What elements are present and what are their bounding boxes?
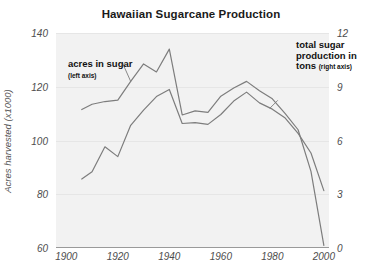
annotation-acres-axis-note: (left axis)	[68, 72, 97, 79]
left-axis-tick-label: 80	[0, 189, 48, 200]
annotation-sugar-label-line2: production in	[296, 50, 357, 61]
right-axis-tick-label: 6	[329, 135, 363, 146]
annotation-sugar-label-line3: tons	[296, 60, 316, 71]
right-axis-tick-label: 9	[329, 81, 363, 92]
annotation-sugar-label-line1: total sugar	[296, 39, 345, 50]
x-axis-tick-label: 1900	[55, 251, 77, 262]
x-axis-tick-label: 1920	[107, 251, 129, 262]
left-axis-tick-label: 100	[0, 135, 48, 146]
chart-title: Hawaiian Sugarcane Production	[0, 8, 382, 20]
annotation-acres-label: acres in sugar	[68, 58, 132, 69]
annotation-acres-in-sugar: acres in sugar (left axis)	[68, 59, 168, 81]
left-axis-tick-label: 140	[0, 28, 48, 39]
right-axis-tick-label: 12	[329, 28, 363, 39]
x-axis-tick-label: 1980	[261, 251, 283, 262]
right-axis-tick-label: 3	[329, 189, 363, 200]
annotation-sugar-axis-note: (right axis)	[319, 63, 352, 70]
chart-container: Hawaiian Sugarcane Production Acres harv…	[0, 0, 382, 273]
x-axis-tick-label: 1960	[210, 251, 232, 262]
x-axis-tick-label: 1940	[158, 251, 180, 262]
x-axis-tick-label: 2000	[313, 251, 335, 262]
left-axis-tick-label: 60	[0, 243, 48, 254]
left-axis-tick-label: 120	[0, 81, 48, 92]
annotation-total-sugar-production: total sugar production in tons (right ax…	[296, 40, 374, 73]
x-axis-line	[56, 247, 329, 248]
series-line-total-sugar-production	[82, 89, 324, 190]
